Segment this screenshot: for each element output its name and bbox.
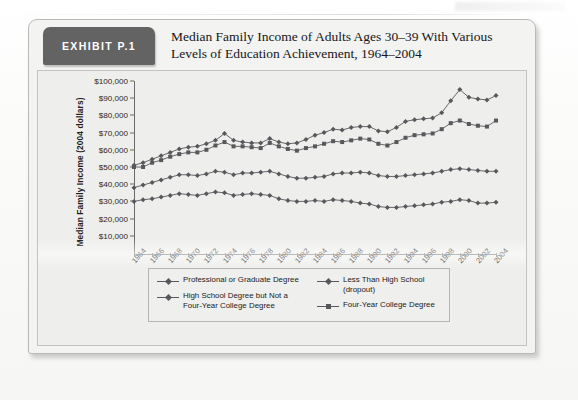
series-marker [421, 171, 426, 176]
series-marker [285, 141, 290, 146]
series-marker [322, 199, 327, 204]
series-marker [303, 199, 308, 204]
series-marker [421, 116, 426, 121]
series-marker [313, 133, 318, 138]
series-marker [331, 127, 336, 132]
series-marker [186, 192, 191, 197]
series-marker [403, 204, 408, 209]
series-marker [249, 140, 254, 145]
series-marker [168, 175, 173, 180]
y-tick-label: $70,000 [99, 128, 134, 137]
series-marker [412, 172, 417, 177]
series-marker [412, 203, 417, 208]
series-marker [240, 192, 245, 197]
series-marker [313, 175, 318, 180]
series-marker [340, 171, 345, 176]
y-tick-label: $100,000 [94, 77, 134, 86]
series-marker [475, 201, 480, 206]
series-marker [331, 197, 336, 202]
series-marker [322, 142, 326, 146]
series-marker [466, 198, 471, 203]
legend-item-professional: Professional or Graduate Degree [157, 275, 315, 286]
series-marker [385, 205, 390, 210]
legend-column-right: Less Than High School (dropout) Four-Yea… [317, 275, 445, 316]
series-marker [358, 124, 363, 129]
series-marker [376, 173, 381, 178]
series-marker [349, 171, 354, 176]
data-series-layer [134, 81, 496, 253]
series-marker [276, 140, 281, 145]
series-marker [250, 145, 254, 149]
series-marker [141, 160, 146, 165]
series-marker [349, 125, 354, 130]
series-marker [394, 125, 399, 130]
legend-item-fouryear: Four-Year College Degree [317, 300, 445, 311]
series-marker [241, 144, 245, 148]
series-marker [223, 140, 227, 144]
series-marker [294, 199, 299, 204]
series-marker [294, 176, 299, 181]
series-marker [159, 158, 163, 162]
exhibit-tag: EXHIBIT P.1 [43, 27, 155, 65]
series-marker [285, 198, 290, 203]
series-marker [494, 169, 499, 174]
y-axis-title: Median Family Income (2004 dollars) [75, 87, 85, 257]
series-marker [168, 150, 173, 155]
series-marker [367, 171, 372, 176]
legend-column-left: Professional or Graduate Degree High Sch… [157, 275, 315, 316]
series-marker [177, 146, 182, 151]
series-marker [304, 146, 308, 150]
series-marker [367, 137, 371, 141]
series-marker [412, 117, 417, 122]
series-marker [385, 144, 389, 148]
series-marker [213, 169, 218, 174]
series-marker [358, 137, 362, 141]
series-marker [484, 97, 489, 102]
series-marker [313, 198, 318, 203]
series-marker [394, 174, 399, 179]
series-marker [484, 169, 489, 174]
series-marker [430, 201, 435, 206]
series-marker [249, 171, 254, 176]
series-marker [475, 97, 480, 102]
series-marker [385, 174, 390, 179]
series-marker [376, 142, 380, 146]
series-marker [249, 191, 254, 196]
series-marker [340, 140, 344, 144]
y-tick-label: $40,000 [99, 180, 134, 189]
legend-item-highschool: High School Degree but Not a Four-Year C… [157, 291, 315, 311]
series-marker [258, 170, 263, 175]
series-marker [276, 171, 281, 176]
series-marker [231, 172, 236, 177]
page-header-smudge [455, 2, 565, 11]
chart-panel: Median Family Income (2004 dollars) Year… [37, 70, 527, 346]
y-tick-label: $30,000 [99, 197, 134, 206]
y-tick-label: $20,000 [99, 214, 134, 223]
series-marker [267, 169, 272, 174]
series-marker [286, 147, 290, 151]
series-marker [150, 161, 154, 165]
series-marker [232, 144, 236, 148]
series-marker [322, 174, 327, 179]
series-marker [449, 121, 453, 125]
series-marker [267, 193, 272, 198]
legend-label-line-2: Four-Year College Degree [183, 301, 275, 310]
series-marker [458, 119, 462, 123]
series-marker [141, 165, 145, 169]
y-tick-label: $50,000 [99, 163, 134, 172]
series-marker [467, 122, 471, 126]
series-marker [494, 200, 499, 205]
legend-label-line-1: High School Degree but Not a [183, 291, 288, 300]
series-marker [295, 149, 299, 153]
series-marker [222, 170, 227, 175]
series-marker [349, 138, 353, 142]
series-marker [204, 171, 209, 176]
series-marker [413, 133, 417, 137]
series-marker [440, 127, 444, 131]
series-marker [277, 144, 281, 148]
series-marker [475, 168, 480, 173]
series-marker [213, 144, 217, 148]
legend-label: Less Than High School (dropout) [339, 275, 445, 295]
series-marker [177, 152, 181, 156]
exhibit-title-line-1: Median Family Income of Adults Ages 30–3… [171, 28, 511, 45]
